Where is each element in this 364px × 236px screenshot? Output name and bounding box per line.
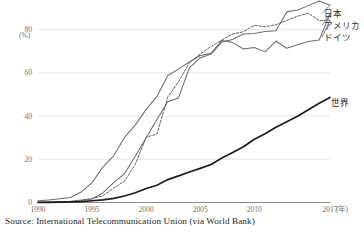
x-tick-label: 2010 [247, 205, 262, 214]
legend-label-germany: ドイツ [324, 33, 351, 43]
y-tick-label: 60 [25, 68, 33, 77]
legend-label-world: 世界 [331, 97, 349, 108]
internet-usage-line-chart: 806040200 (%) 199019952000200520102017 (… [0, 0, 364, 214]
x-tick-label: 1995 [85, 205, 100, 214]
x-tick-label: 2005 [193, 205, 208, 214]
y-axis-unit-label: (%) [19, 31, 31, 40]
x-tick-label: 2000 [139, 205, 154, 214]
series-line-japan [38, 1, 330, 202]
x-tick-label: 1990 [31, 205, 46, 214]
x-axis-labels-group: 199019952000200520102017 [31, 205, 338, 214]
source-caption: Source: International Telecommunication … [5, 216, 255, 226]
series-line-usa [38, 14, 330, 201]
series-line-world [38, 97, 330, 202]
series-group [38, 1, 330, 202]
chart-figure: 806040200 (%) 199019952000200520102017 (… [0, 0, 364, 236]
x-axis-unit-label: (年) [336, 204, 348, 214]
y-axis-labels-group: 806040200 [25, 25, 33, 207]
gridlines-group [38, 30, 330, 160]
y-tick-label: 20 [25, 155, 33, 164]
legend-label-usa: アメリカ [324, 21, 360, 31]
legend-label-japan: 日本 [324, 8, 342, 19]
y-tick-label: 40 [25, 112, 33, 121]
